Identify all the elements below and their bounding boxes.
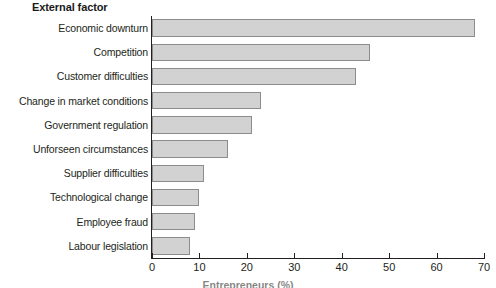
bar-5 (152, 140, 228, 158)
x-tick-label-20: 20 (227, 261, 267, 273)
bar-3 (152, 92, 261, 110)
bar-row: Technological change (0, 185, 496, 209)
category-label-5: Unforseen circumstances (33, 137, 148, 161)
category-label-7: Technological change (50, 185, 148, 209)
x-tick-70 (484, 253, 485, 259)
category-label-0: Economic downturn (58, 16, 148, 40)
bar-row: Change in market conditions (0, 89, 496, 113)
x-tick-30 (294, 253, 295, 259)
category-label-4: Government regulation (44, 113, 148, 137)
bar-row: Economic downturn (0, 16, 496, 40)
x-tick-label-70: 70 (464, 261, 496, 273)
x-tick-label-60: 60 (417, 261, 457, 273)
category-label-3: Change in market conditions (19, 89, 148, 113)
bar-row: Government regulation (0, 113, 496, 137)
x-tick-label-30: 30 (274, 261, 314, 273)
x-tick-40 (342, 253, 343, 259)
bar-row: Unforseen circumstances (0, 137, 496, 161)
bar-row: Competition (0, 40, 496, 64)
x-tick-label-40: 40 (322, 261, 362, 273)
x-tick-0 (152, 253, 153, 259)
bar-row: Customer difficulties (0, 64, 496, 88)
bar-row: Labour legislation (0, 234, 496, 258)
x-tick-label-10: 10 (179, 261, 219, 273)
bar-1 (152, 44, 370, 62)
bar-6 (152, 165, 204, 183)
bar-7 (152, 189, 199, 207)
bar-8 (152, 213, 195, 231)
x-axis-line (151, 258, 485, 259)
bar-chart: External factor Economic downturnCompeti… (0, 0, 496, 288)
x-tick-10 (199, 253, 200, 259)
bar-9 (152, 237, 190, 255)
category-label-6: Supplier difficulties (64, 161, 148, 185)
bar-0 (152, 19, 475, 37)
category-label-2: Customer difficulties (57, 64, 148, 88)
x-tick-label-50: 50 (369, 261, 409, 273)
bar-4 (152, 116, 252, 134)
x-tick-20 (247, 253, 248, 259)
category-label-9: Labour legislation (68, 234, 148, 258)
x-axis-title: Entrepreneurs (%) (0, 279, 496, 288)
bar-row: Employee fraud (0, 210, 496, 234)
x-tick-label-0: 0 (132, 261, 172, 273)
category-label-1: Competition (94, 40, 148, 64)
category-label-8: Employee fraud (77, 210, 148, 234)
chart-title: External factor (32, 1, 108, 13)
x-tick-50 (389, 253, 390, 259)
x-tick-60 (437, 253, 438, 259)
bar-row: Supplier difficulties (0, 161, 496, 185)
bar-2 (152, 68, 356, 86)
